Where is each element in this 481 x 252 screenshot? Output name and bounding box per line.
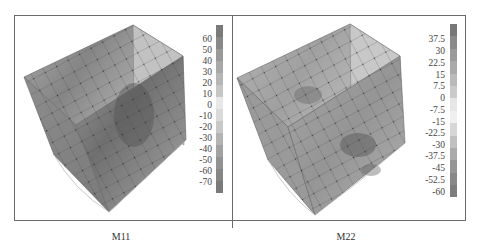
tick: -60 — [432, 188, 445, 198]
tick: -30 — [199, 134, 212, 144]
tick: -30 — [432, 141, 445, 151]
m22-colorbar — [450, 24, 457, 198]
tick: -15 — [432, 118, 445, 128]
tick: 30 — [436, 47, 446, 57]
tick: -37.5 — [425, 152, 445, 162]
tick: 20 — [203, 79, 213, 89]
m11-colorbar — [216, 25, 223, 193]
tick: 37.5 — [428, 35, 445, 45]
tick: 0 — [440, 94, 445, 104]
tick: 10 — [203, 90, 213, 100]
m22-colorbar-ticks: 37.5 30 22.5 15 7.5 0 -7.5 -15 -22.5 -30… — [393, 15, 445, 215]
tick: -20 — [199, 123, 212, 133]
tick: 15 — [436, 71, 446, 81]
caption-m11: M11 — [91, 231, 151, 242]
panel-m11: 60 50 40 30 20 10 0 -10 -20 -30 -40 -50 … — [14, 15, 232, 221]
m11-colorbar-ticks: 60 50 40 30 20 10 0 -10 -20 -30 -40 -50 … — [164, 15, 212, 205]
tick: -45 — [432, 164, 445, 174]
tick: -40 — [199, 145, 212, 155]
tick: 7.5 — [433, 82, 445, 92]
tick: 60 — [203, 35, 213, 45]
tick: 0 — [207, 101, 212, 111]
tick: -10 — [199, 112, 212, 122]
tick: 30 — [203, 68, 213, 78]
tick: -50 — [199, 156, 212, 166]
tick: -60 — [199, 167, 212, 177]
tick: -52.5 — [425, 176, 445, 186]
tick: 22.5 — [428, 59, 445, 69]
tick: 50 — [203, 46, 213, 56]
panel-m22: 37.5 30 22.5 15 7.5 0 -7.5 -15 -22.5 -30… — [233, 15, 466, 221]
tick: 40 — [203, 57, 213, 67]
caption-m22: M22 — [316, 231, 376, 242]
tick: -22.5 — [425, 129, 445, 139]
tick: -7.5 — [430, 106, 445, 116]
tick: -70 — [199, 178, 212, 188]
